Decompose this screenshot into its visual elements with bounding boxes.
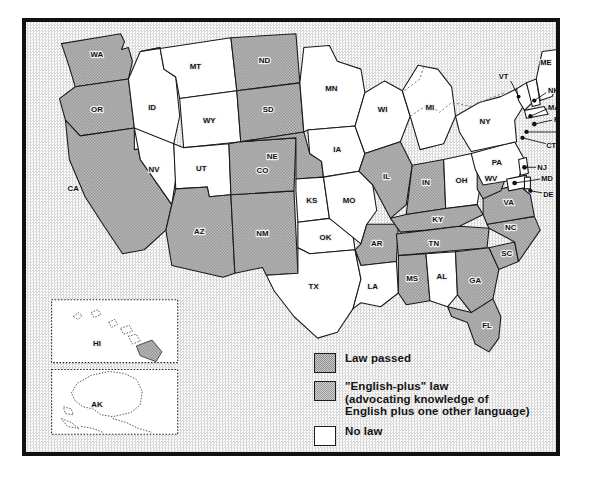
state-label-NM: NM	[256, 229, 269, 238]
inset-label-HI: HI	[93, 339, 101, 348]
state-label-VA: VA	[504, 198, 515, 207]
leader-label-NJ: NJ	[537, 163, 547, 172]
legend-item-english-plus: "English-plus" law (advocating knowledge…	[314, 380, 554, 418]
legend-swatch-no-law	[314, 426, 336, 446]
state-label-WY: WY	[203, 116, 216, 125]
state-label-SD: SD	[263, 105, 274, 114]
legend-text-law-passed: Law passed	[345, 352, 411, 365]
leader-label-MD: MD	[541, 174, 553, 183]
state-label-IA: IA	[333, 145, 341, 154]
state-label-WV: WV	[485, 174, 498, 183]
legend-item-no-law: No law	[314, 425, 554, 446]
state-label-NE: NE	[267, 152, 278, 161]
leader-label-RI: RI	[554, 115, 556, 124]
state-label-MO: MO	[343, 196, 356, 205]
state-label-TN: TN	[429, 239, 440, 248]
leader-label-CT: CT	[546, 141, 556, 150]
alaska-inset: AK	[52, 370, 178, 435]
legend-line: "English-plus" law	[345, 380, 530, 393]
state-label-UT: UT	[196, 164, 207, 173]
hawaii-inset: HI	[52, 300, 178, 363]
state-label-TX: TX	[309, 282, 320, 291]
state-label-NV: NV	[149, 165, 161, 174]
state-label-KS: KS	[306, 196, 317, 205]
state-label-IL: IL	[383, 172, 390, 181]
leader-label-MA: MA	[548, 103, 556, 112]
state-MA	[524, 106, 548, 118]
state-label-ID: ID	[148, 103, 156, 112]
state-label-GA: GA	[469, 276, 481, 285]
legend-line: No law	[345, 425, 383, 438]
inset-label-AK: AK	[91, 400, 103, 409]
state-label-MS: MS	[406, 274, 418, 283]
state-label-KY: KY	[432, 215, 444, 224]
state-label-PA: PA	[492, 158, 503, 167]
leader-label-VT: VT	[499, 72, 509, 81]
leader-label-NH: NH	[548, 86, 556, 95]
map-stage: WA OR CA NV ID MT WY UT AZ NM CO ND SD N…	[26, 22, 556, 452]
state-label-MT: MT	[190, 62, 202, 71]
state-label-NY: NY	[480, 117, 492, 126]
legend-item-law-passed: Law passed	[314, 352, 554, 373]
state-label-IN: IN	[422, 178, 430, 187]
state-label-WI: WI	[378, 105, 388, 114]
state-label-AZ: AZ	[194, 227, 205, 236]
legend-line: English plus one other language)	[345, 405, 530, 418]
state-label-ND: ND	[259, 56, 271, 65]
map-legend: Law passed "English-plus" law (advocatin…	[314, 352, 554, 453]
legend-swatch-law-passed	[314, 353, 336, 373]
state-label-OR: OR	[91, 105, 103, 114]
state-label-FL: FL	[482, 321, 492, 330]
legend-swatch-english-plus	[314, 381, 336, 401]
state-label-OH: OH	[456, 176, 468, 185]
state-label-CO: CO	[257, 166, 269, 175]
state-label-WA: WA	[91, 50, 104, 59]
state-label-LA: LA	[368, 282, 379, 291]
state-label-NC: NC	[505, 223, 517, 232]
legend-text-english-plus: "English-plus" law (advocating knowledge…	[345, 380, 530, 418]
state-label-MN: MN	[325, 84, 338, 93]
state-DE	[524, 177, 530, 189]
state-WA	[61, 34, 132, 87]
legend-line: Law passed	[345, 352, 411, 365]
map-figure: WA OR CA NV ID MT WY UT AZ NM CO ND SD N…	[22, 18, 560, 456]
state-label-AR: AR	[371, 239, 383, 248]
state-label-OK: OK	[320, 233, 332, 242]
leader-label-ME: ME	[540, 58, 551, 67]
state-label-CA: CA	[68, 184, 80, 193]
legend-text-no-law: No law	[345, 425, 383, 438]
state-label-AL: AL	[436, 272, 447, 281]
state-label-SC: SC	[501, 249, 512, 258]
state-label-MI: MI	[426, 103, 435, 112]
legend-line: (advocating knowledge of	[345, 393, 530, 406]
leader-label-DE: DE	[543, 190, 553, 199]
